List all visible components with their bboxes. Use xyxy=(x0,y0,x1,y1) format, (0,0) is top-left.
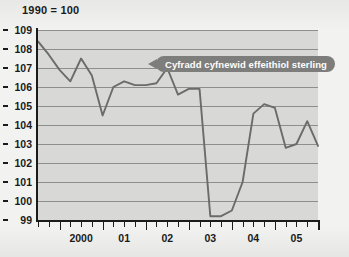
x-axis-tick-minor xyxy=(286,222,287,227)
chart-title: 1990 = 100 xyxy=(22,4,79,16)
x-axis-tick-minor xyxy=(210,222,211,227)
y-axis-tick xyxy=(3,105,8,107)
x-axis-tick-minor xyxy=(92,222,93,227)
y-axis-label: 104 xyxy=(14,119,32,131)
x-axis-tick-major xyxy=(60,222,62,230)
x-axis-tick-major xyxy=(189,222,191,230)
x-axis-tick-minor xyxy=(307,222,308,227)
y-axis-tick xyxy=(3,162,8,164)
y-axis-label: 102 xyxy=(14,157,32,169)
x-axis-ticks xyxy=(38,222,318,231)
callout-label: Cyfradd cyfnewid effeithiol sterling xyxy=(165,59,327,70)
y-axis-tick xyxy=(3,181,8,183)
y-axis-tick xyxy=(3,219,8,221)
y-axis-tick xyxy=(3,124,8,126)
x-axis-label: 02 xyxy=(161,232,173,244)
x-axis-tick-major xyxy=(103,222,105,230)
x-axis-tick-minor xyxy=(167,222,168,227)
y-axis-label: 103 xyxy=(14,138,32,150)
x-axis-tick-minor xyxy=(156,222,157,227)
y-axis-label: 108 xyxy=(14,43,32,55)
y-axis-label: 99 xyxy=(20,214,32,226)
x-axis-label: 2000 xyxy=(69,232,92,244)
y-axis-label: 109 xyxy=(14,24,32,36)
x-axis-tick-major xyxy=(318,222,320,230)
x-axis-tick-major xyxy=(232,222,234,230)
x-axis-tick-minor xyxy=(49,222,50,227)
y-axis-label: 106 xyxy=(14,81,32,93)
x-axis-label: 04 xyxy=(248,232,260,244)
x-axis-tick-major xyxy=(275,222,277,230)
x-axis-label: 03 xyxy=(204,232,216,244)
x-axis-tick-minor xyxy=(124,222,125,227)
x-axis-tick-minor xyxy=(253,222,254,227)
y-axis-label: 107 xyxy=(14,62,32,74)
y-axis-tick xyxy=(3,29,8,31)
x-axis-tick-minor xyxy=(221,222,222,227)
y-axis-label: 100 xyxy=(14,195,32,207)
x-axis-tick-minor xyxy=(296,222,297,227)
y-axis-labels: 10910810710610510410310210110099 xyxy=(8,30,32,220)
x-axis-tick-minor xyxy=(178,222,179,227)
y-axis-tick xyxy=(3,86,8,88)
y-axis-tick xyxy=(3,143,8,145)
x-axis-label: 05 xyxy=(291,232,303,244)
x-axis-tick-major xyxy=(146,222,148,230)
callout-pointer-icon xyxy=(148,59,157,69)
x-axis-tick-minor xyxy=(135,222,136,227)
x-axis-labels: 20000102030405 xyxy=(38,232,318,246)
x-axis-tick-minor xyxy=(200,222,201,227)
x-axis-tick-minor xyxy=(113,222,114,227)
x-axis-tick-minor xyxy=(38,222,39,227)
y-axis-tick xyxy=(3,200,8,202)
y-axis-tick xyxy=(3,48,8,50)
x-axis-tick-minor xyxy=(81,222,82,227)
y-axis xyxy=(36,28,38,222)
y-axis-label: 101 xyxy=(14,176,32,188)
series-callout: Cyfradd cyfnewid effeithiol sterling xyxy=(156,56,335,72)
y-axis-tick xyxy=(3,67,8,69)
y-axis-label: 105 xyxy=(14,100,32,112)
chart-figure: 1990 = 100 10910810710610510410310210110… xyxy=(0,0,349,257)
x-axis-label: 01 xyxy=(118,232,130,244)
x-axis-tick-minor xyxy=(264,222,265,227)
x-axis-tick-minor xyxy=(70,222,71,227)
x-axis-tick-minor xyxy=(243,222,244,227)
